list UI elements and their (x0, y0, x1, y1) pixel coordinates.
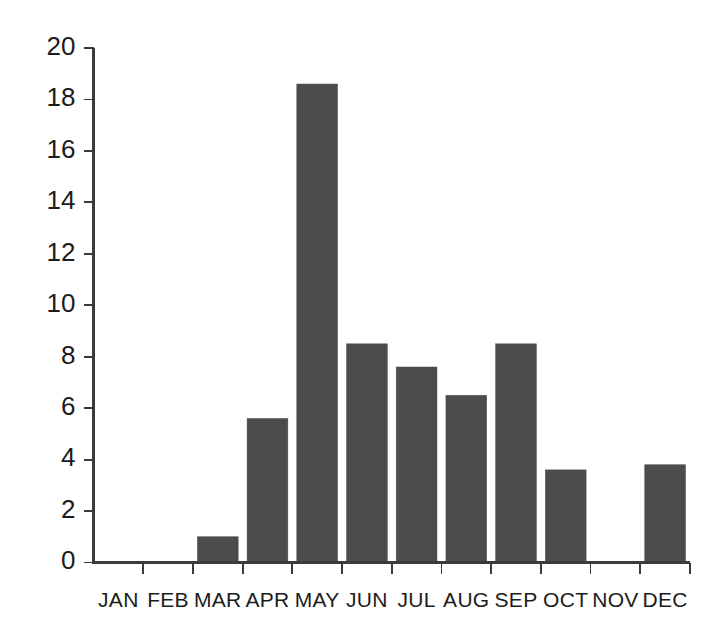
x-tick-label-jan: JAN (98, 588, 139, 611)
x-tick-label-mar: MAR (194, 588, 242, 611)
bar-oct (545, 470, 586, 563)
y-tick-label: 0 (61, 545, 75, 575)
bar-sep (496, 344, 537, 563)
x-tick-label-oct: OCT (543, 588, 588, 611)
x-tick-label-nov: NOV (592, 588, 638, 611)
chart-canvas: 02468101214161820 JANFEBMARAPRMAYJUNJULA… (0, 0, 724, 643)
y-tick-label: 10 (47, 288, 76, 318)
x-tick-label-jun: JUN (346, 588, 388, 611)
x-tick-label-may: MAY (295, 588, 340, 611)
x-tick-label-dec: DEC (643, 588, 688, 611)
bar-apr (247, 418, 288, 562)
x-tick-label-sep: SEP (495, 588, 538, 611)
x-tick-label-apr: APR (245, 588, 289, 611)
bar-jun (347, 344, 388, 563)
y-tick-label: 14 (47, 185, 76, 215)
bar-chart: 02468101214161820 JANFEBMARAPRMAYJUNJULA… (0, 0, 724, 643)
bar-may (297, 84, 338, 562)
x-tick-label-aug: AUG (443, 588, 489, 611)
y-tick-label: 8 (61, 340, 75, 370)
x-tick-label-feb: FEB (147, 588, 189, 611)
y-tick-label: 18 (47, 82, 76, 112)
y-tick-label: 16 (47, 134, 76, 164)
bar-jul (396, 367, 437, 563)
x-tick-label-jul: JUL (397, 588, 435, 611)
bar-aug (446, 395, 487, 562)
bar-dec (645, 465, 686, 563)
y-tick-label: 12 (47, 237, 76, 267)
y-tick-label: 2 (61, 494, 75, 524)
y-tick-label: 6 (61, 391, 75, 421)
y-tick-label: 4 (61, 442, 75, 472)
bar-mar (197, 537, 238, 563)
y-tick-label: 20 (47, 31, 76, 61)
